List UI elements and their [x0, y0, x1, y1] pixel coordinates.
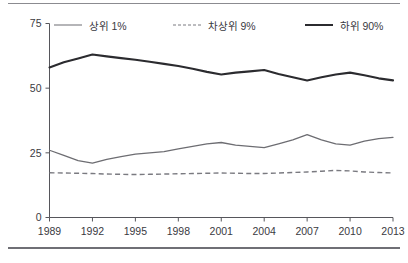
y-axis-ticks: 0255075	[30, 17, 50, 223]
line-chart-svg: 0255075 19891992199519982001200420072010…	[0, 0, 408, 263]
plot-area: 0255075 19891992199519982001200420072010…	[0, 0, 408, 263]
series-line-top1	[50, 135, 394, 163]
x-tick-label: 2013	[381, 225, 405, 237]
series-line-next9	[50, 170, 394, 174]
y-tick-label: 50	[30, 82, 42, 94]
x-tick-label: 1995	[124, 225, 148, 237]
y-tick-label: 25	[30, 147, 42, 159]
x-tick-label: 2007	[295, 225, 319, 237]
x-tick-label: 2001	[210, 225, 234, 237]
x-tick-label: 2004	[253, 225, 277, 237]
data-series-group	[50, 55, 394, 175]
chart-figure: 상위 1% 차상위 9% 하위 90% 0255075 198919921995…	[0, 0, 408, 263]
y-tick-label: 0	[36, 211, 42, 223]
y-tick-label: 75	[30, 17, 42, 29]
x-tick-label: 1989	[38, 225, 62, 237]
x-tick-label: 1992	[81, 225, 105, 237]
x-axis-ticks: 198919921995199820012004200720102013	[38, 218, 405, 237]
bottom-divider-rule	[8, 247, 400, 249]
x-tick-label: 1998	[167, 225, 191, 237]
series-line-bottom90	[50, 55, 394, 81]
x-tick-label: 2010	[338, 225, 362, 237]
